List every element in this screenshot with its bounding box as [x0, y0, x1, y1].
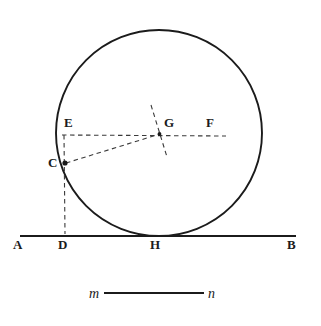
segment-label-n: n [208, 287, 215, 301]
point-label-f: F [206, 116, 214, 129]
dashed-line-EF [62, 135, 226, 136]
point-marker-G [158, 132, 162, 136]
point-label-b: B [287, 238, 296, 251]
point-label-h: H [150, 238, 160, 251]
dashed-line-oblique-through-G [151, 105, 167, 157]
point-label-d: D [58, 238, 67, 251]
point-label-e: E [64, 116, 73, 129]
point-label-c: C [48, 156, 57, 169]
dashed-line-ECD [64, 135, 65, 234]
dashed-line-CG [66, 134, 160, 163]
point-label-a: A [13, 238, 22, 251]
segment-label-m: m [89, 287, 99, 301]
point-label-g: G [164, 116, 174, 129]
point-marker-C [62, 160, 67, 165]
geometry-figure: A D H B C E G F m n [0, 0, 321, 326]
